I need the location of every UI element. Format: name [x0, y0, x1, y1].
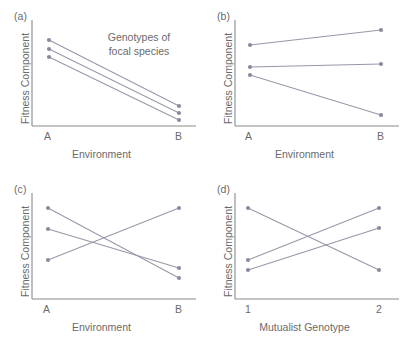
panel-b-series [250, 30, 381, 115]
panel-c-xtick-0: A [43, 303, 50, 315]
panel-a: (a) Fitness Component Genotypes of [0, 0, 203, 173]
panel-a-annotation-line1: Genotypes of [108, 31, 170, 43]
panel-c-axes [32, 193, 196, 299]
panel-b-markers [248, 28, 383, 117]
panel-b-axes [235, 20, 399, 126]
panel-b-x-axis-title: Environment [203, 148, 406, 160]
panel-b-xtick-1: B [377, 130, 384, 142]
panel-b-xtick-0: A [245, 130, 252, 142]
panel-c-x-axis-title: Environment [0, 321, 203, 333]
panel-a-xtick-1: B [175, 130, 182, 142]
panel-d-x-axis-title: Mutualist Genotype [203, 321, 406, 333]
panel-d-xtick-1: 2 [376, 303, 382, 315]
panel-d-axes [235, 193, 399, 299]
panel-c-series [48, 208, 179, 278]
panel-a-xtick-0: A [44, 130, 51, 142]
panel-d-series [248, 208, 379, 270]
figure-reaction-norms: (a) Fitness Component Genotypes of [0, 0, 407, 346]
panel-c: (c) Fitness Component A B Environ [0, 173, 203, 346]
panel-c-xtick-1: B [175, 303, 182, 315]
panel-a-x-axis-title: Environment [0, 148, 203, 160]
panel-d: (d) Fitness Component 1 2 Mutuali [203, 173, 406, 346]
panel-d-xtick-0: 1 [245, 303, 251, 315]
panel-a-annotation-line2: focal species [109, 45, 170, 57]
panel-b: (b) Fitness Component A B Environ [203, 0, 406, 173]
panel-a-annotation: Genotypes of focal species [84, 31, 194, 58]
